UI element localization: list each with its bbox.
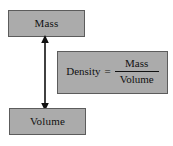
fraction-bar: [115, 71, 159, 72]
fraction-denominator: Volume: [118, 73, 156, 86]
equals-sign: =: [105, 66, 111, 77]
mass-box: Mass: [8, 10, 85, 37]
equation-left-side: Density: [66, 66, 100, 77]
fraction: Mass Volume: [115, 57, 159, 86]
arrow-head-up: [41, 35, 49, 43]
density-equation: Density = Mass Volume: [66, 57, 158, 86]
volume-box: Volume: [9, 108, 86, 135]
fraction-numerator: Mass: [123, 57, 150, 70]
arrow-svg: [38, 35, 52, 111]
double-headed-arrow-icon: [38, 35, 52, 111]
mass-box-label: Mass: [34, 18, 58, 29]
density-diagram: Mass Density = Mass Volume Volume: [0, 0, 173, 146]
density-equation-box: Density = Mass Volume: [57, 51, 168, 94]
volume-box-label: Volume: [30, 116, 65, 127]
